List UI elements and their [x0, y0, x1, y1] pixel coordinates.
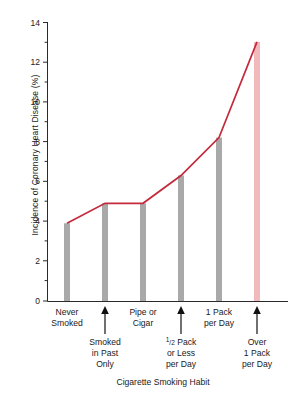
cat-half-pack-line2: or Less [167, 348, 195, 358]
cat-smoked-in-past-only-line3: Only [96, 359, 114, 369]
bar-half-pack-or-less-per-day [178, 175, 184, 301]
y-axis-title: Incidence of Coronary Heart Disease (%) [30, 50, 40, 260]
category-label-pipe-or-cigar: Pipe or Cigar [129, 307, 156, 328]
cat-over-one-pack-line1: Over [248, 337, 267, 347]
arrow-half-pack-or-less-per-day [177, 306, 185, 334]
chart-figure: Incidence of Coronary Heart Disease (%) [0, 0, 305, 394]
bar-over-one-pack-per-day [254, 42, 260, 301]
trend-line [67, 42, 257, 223]
cat-half-pack-line3: per Day [166, 359, 197, 369]
cat-one-pack-per-day-line1: 1 Pack [206, 307, 233, 317]
x-axis-title: Cigarette Smoking Habit [116, 377, 210, 387]
category-label-over-one-pack-per-day: Over 1 Pack per Day [242, 337, 273, 369]
cat-over-one-pack-line2: 1 Pack [244, 348, 271, 358]
arrow-smoked-in-past-only [101, 306, 109, 334]
category-label-one-pack-per-day: 1 Pack per Day [204, 307, 235, 328]
bar-pipe-or-cigar [140, 203, 146, 301]
chart-canvas: 14 12 10 8 6 4 2 0 [0, 0, 305, 394]
category-arrows [101, 306, 261, 334]
category-label-smoked-in-past-only: Smoked in Past Only [89, 337, 121, 369]
y-tick-label-0: 0 [35, 296, 40, 306]
cat-smoked-in-past-only-line2: in Past [92, 348, 119, 358]
cat-pipe-or-cigar-line1: Pipe or [129, 307, 156, 317]
cat-over-one-pack-line3: per Day [242, 359, 273, 369]
bar-smoked-in-past-only [102, 203, 108, 301]
cat-never-smoked-line1: Never [56, 307, 79, 317]
bar-never-smoked [64, 223, 70, 301]
arrow-over-one-pack-per-day [253, 306, 261, 334]
cat-pipe-or-cigar-line2: Cigar [133, 318, 154, 328]
cat-smoked-in-past-only-line1: Smoked [89, 337, 121, 347]
category-label-half-pack-or-less-per-day: 1/2 Pack or Less per Day [166, 336, 197, 369]
y-tick-label-14: 14 [31, 18, 41, 28]
bars-group [64, 42, 260, 301]
category-label-never-smoked: Never Smoked [51, 307, 83, 328]
cat-never-smoked-line2: Smoked [51, 318, 83, 328]
cat-half-pack-word: Pack [175, 337, 197, 347]
bar-one-pack-per-day [216, 138, 222, 301]
cat-half-pack-line1: 1/2 Pack [166, 336, 197, 347]
cat-one-pack-per-day-line2: per Day [204, 318, 235, 328]
